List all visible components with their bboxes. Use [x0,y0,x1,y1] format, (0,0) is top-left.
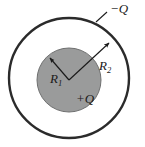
inner-radius-subscript: 1 [58,78,62,88]
physics-figure: −Q R2 R1 +Q [0,0,145,147]
outer-charge-label: −Q [110,1,129,16]
figure-canvas: −Q R2 R1 +Q [0,0,145,147]
outer-radius-label: R2 [98,58,112,75]
outer-radius-subscript: 2 [107,65,112,75]
inner-radius-symbol: R [49,71,58,86]
outer-radius-symbol: R [98,58,107,73]
inner-charge-label: +Q [76,91,95,106]
outer-charge-leader-line [96,12,107,22]
